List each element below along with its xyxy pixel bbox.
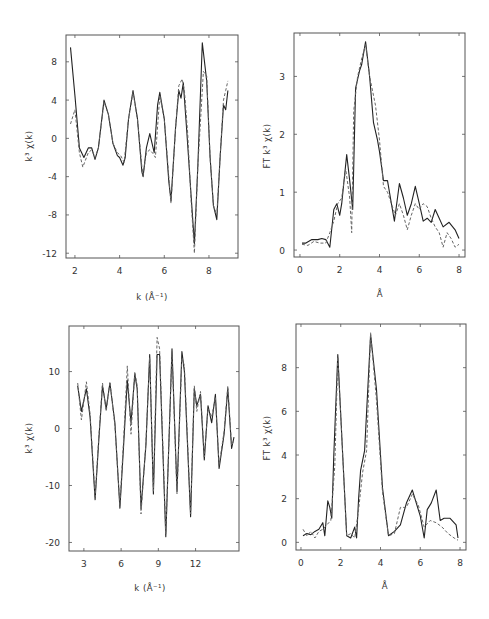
x-tick-label: 6 — [161, 266, 167, 276]
y-tick-label: -12 — [42, 249, 57, 259]
y-tick-label: -10 — [45, 481, 60, 491]
y-axis-label: FT k³ χ(k) — [262, 415, 272, 460]
y-tick-label: 3 — [279, 72, 285, 82]
y-tick-label: 4 — [281, 451, 287, 461]
x-tick-label: 4 — [377, 265, 383, 275]
x-tick-label: 0 — [297, 265, 303, 275]
x-tick-label: 8 — [457, 558, 463, 568]
y-tick-label: 4 — [51, 96, 57, 106]
y-tick-label: -4 — [48, 172, 57, 182]
x-tick-label: 6 — [118, 559, 124, 569]
y-tick-label: 2 — [281, 494, 287, 504]
panel-bottom-left: 36912100-10-20 k (Å⁻¹) k³ χ(k) — [24, 326, 239, 593]
y-tick-label: 0 — [54, 424, 60, 434]
x-tick-label: 6 — [416, 265, 422, 275]
y-tick-label: 8 — [51, 57, 57, 67]
x-tick-label: 3 — [81, 559, 87, 569]
y-tick-label: 8 — [281, 363, 287, 373]
y-axis-label: k³ χ(k) — [24, 131, 34, 162]
x-tick-label: 8 — [456, 265, 462, 275]
panel-bottom-right: 0246802468 Å FT k³ χ(k) — [262, 324, 466, 591]
x-tick-label: 6 — [417, 558, 423, 568]
x-tick-label: 12 — [190, 559, 201, 569]
x-axis-label: k (Å⁻¹) — [134, 582, 165, 593]
x-axis-label: Å — [377, 288, 383, 299]
y-tick-label: -8 — [48, 210, 57, 220]
fit-curve — [302, 45, 459, 248]
x-tick-label: 2 — [338, 558, 344, 568]
plot-frame — [66, 35, 238, 258]
fit-curve — [78, 337, 234, 534]
x-tick-label: 8 — [206, 266, 212, 276]
x-tick-label: 9 — [155, 559, 161, 569]
y-tick-label: 2 — [279, 130, 285, 140]
fit-curve — [303, 333, 458, 541]
x-tick-label: 2 — [72, 266, 78, 276]
y-tick-label: 6 — [281, 407, 287, 417]
x-tick-label: 0 — [298, 558, 304, 568]
y-axis-label: k³ χ(k) — [24, 423, 34, 454]
experimental-curve — [303, 335, 458, 538]
x-axis-label: k (Å⁻¹) — [136, 291, 167, 302]
fit-curve — [71, 71, 228, 253]
plot-frame — [296, 324, 466, 550]
y-tick-label: 0 — [279, 246, 285, 256]
panel-top-left: 2468840-4-8-12 k (Å⁻¹) k³ χ(k) — [24, 35, 238, 302]
plot-frame — [69, 326, 239, 551]
panel-top-right: 024680123 Å FT k³ χ(k) — [262, 33, 465, 299]
y-tick-label: -20 — [45, 538, 60, 548]
figure-canvas: 2468840-4-8-12 k (Å⁻¹) k³ χ(k) 024680123… — [0, 0, 489, 619]
x-tick-label: 4 — [378, 558, 384, 568]
y-tick-label: 0 — [281, 538, 287, 548]
x-tick-label: 4 — [117, 266, 123, 276]
x-tick-label: 2 — [337, 265, 343, 275]
experimental-curve — [302, 42, 459, 248]
y-tick-label: 10 — [49, 367, 61, 377]
y-tick-label: 0 — [51, 134, 57, 144]
y-axis-label: FT k³ χ(k) — [262, 123, 272, 168]
y-tick-label: 1 — [279, 188, 285, 198]
x-axis-label: Å — [382, 580, 388, 591]
